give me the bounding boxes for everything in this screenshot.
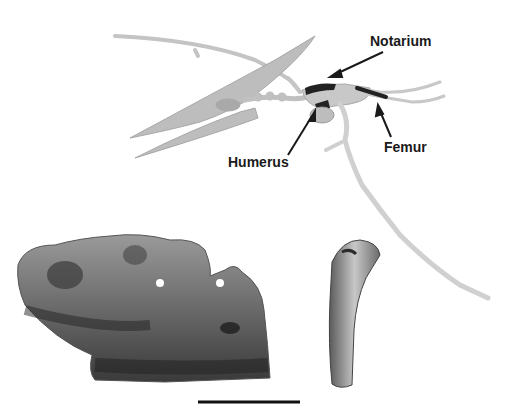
- label-notarium: Notarium: [370, 33, 431, 49]
- humerus-fossil: [329, 240, 380, 387]
- neck: [245, 94, 310, 100]
- label-humerus: Humerus: [228, 154, 289, 170]
- pterosaur-figure: Notarium Humerus Femur: [0, 0, 513, 410]
- legs: [352, 82, 444, 102]
- right-wing-base: [288, 78, 300, 92]
- skeleton-diagram: [0, 0, 513, 410]
- label-femur: Femur: [384, 139, 427, 155]
- notarium-fossil: [18, 235, 270, 382]
